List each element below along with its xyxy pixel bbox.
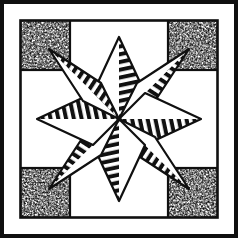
star-center-point [116, 116, 121, 121]
star-block-illustration [0, 0, 238, 238]
artwork-canvas: Eight-Pointed Star Block pen-and-ink eng… [0, 0, 238, 238]
